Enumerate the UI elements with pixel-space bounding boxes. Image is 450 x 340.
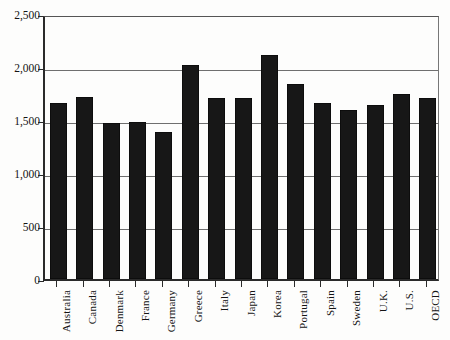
x-axis-tick-mark — [162, 281, 163, 287]
y-axis-tick-label: 1,000 — [0, 169, 40, 181]
bars-layer — [45, 17, 438, 279]
x-axis-tick-mark — [347, 281, 348, 287]
x-axis-tick-label: OECD — [430, 290, 441, 321]
x-axis-tick-mark — [426, 281, 427, 287]
x-axis-tick-label: Spain — [325, 290, 336, 316]
x-axis-tick-mark — [320, 281, 321, 287]
x-axis-tick-label: Canada — [87, 290, 98, 324]
x-axis-tick-label: U.S. — [404, 290, 415, 310]
bar — [129, 122, 146, 279]
x-axis-tick-mark — [267, 281, 268, 287]
x-axis-tick-label: Korea — [272, 290, 283, 318]
bar — [287, 84, 304, 279]
bar — [235, 98, 252, 279]
x-axis-tick-label: Denmark — [114, 290, 125, 332]
y-axis-tick-label: 500 — [0, 222, 40, 234]
x-axis-tick-mark — [56, 281, 57, 287]
x-axis-tick-mark — [83, 281, 84, 287]
x-axis-tick-label: Australia — [61, 290, 72, 332]
x-axis-tick-label: France — [140, 290, 151, 321]
bar — [76, 97, 93, 279]
plot-area — [43, 16, 439, 281]
x-axis-tick-mark — [373, 281, 374, 287]
x-axis-tick-mark — [109, 281, 110, 287]
x-axis-tick-mark — [215, 281, 216, 287]
y-axis-tick-mark — [38, 281, 44, 282]
bar — [208, 98, 225, 279]
x-axis-tick-mark — [241, 281, 242, 287]
bar — [182, 65, 199, 279]
y-axis-tick-label: 2,500 — [0, 10, 40, 22]
bar — [340, 110, 357, 279]
x-axis-tick-label: Portugal — [298, 290, 309, 329]
y-axis-tick-label: 1,500 — [0, 116, 40, 128]
bar — [367, 105, 384, 279]
bar — [314, 103, 331, 279]
x-axis-tick-label: Greece — [193, 290, 204, 322]
x-axis-tick-label: U.K. — [378, 290, 389, 312]
x-axis-tick-mark — [294, 281, 295, 287]
bar — [419, 98, 436, 279]
y-axis-tick-label: 2,000 — [0, 63, 40, 75]
bar-chart: 05001,0001,5002,0002,500 AustraliaCanada… — [0, 0, 450, 340]
x-axis-tick-label: Italy — [219, 290, 230, 311]
x-axis-tick-label: Germany — [166, 290, 177, 332]
x-axis-tick-label: Sweden — [351, 290, 362, 326]
x-axis-tick-label: Japan — [246, 290, 257, 316]
bar — [393, 94, 410, 279]
bar — [261, 55, 278, 279]
x-axis-tick-mark — [135, 281, 136, 287]
x-axis-tick-mark — [188, 281, 189, 287]
y-axis-tick-label: 0 — [0, 275, 40, 287]
x-axis-tick-mark — [399, 281, 400, 287]
bar — [103, 123, 120, 279]
bar — [155, 132, 172, 279]
bar — [50, 103, 67, 279]
